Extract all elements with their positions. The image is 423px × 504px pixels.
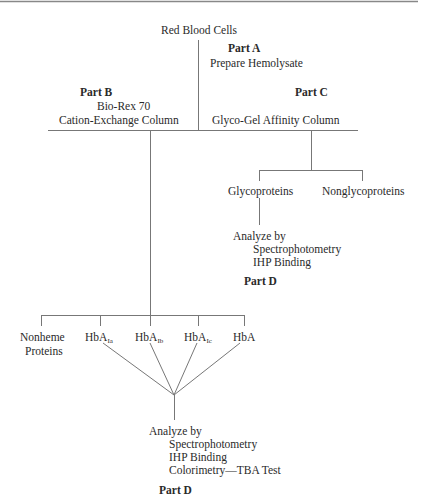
- nonglycoproteins-node: Nonglycoproteins: [322, 184, 404, 198]
- nonheme-node-line1: Nonheme: [20, 330, 65, 344]
- glyco-analyze-title: Analyze by: [233, 229, 286, 243]
- bio-part-d: Part D: [159, 483, 192, 497]
- part-c-label: Part C: [295, 85, 328, 99]
- bio-method-1: Spectrophotometry: [169, 437, 257, 451]
- hba1a-node: HbAIa: [85, 330, 113, 348]
- glycoproteins-node: Glycoproteins: [228, 184, 293, 198]
- nonheme-node-line2: Proteins: [25, 344, 63, 358]
- part-a-label: Part A: [228, 41, 260, 55]
- part-a-text: Prepare Hemolysate: [210, 56, 303, 70]
- part-b-line2: Cation-Exchange Column: [59, 113, 179, 127]
- part-b-line1: Bio-Rex 70: [97, 99, 150, 113]
- part-c-text: Glyco-Gel Affinity Column: [212, 113, 340, 127]
- connector-lines: [0, 0, 423, 504]
- hba-node: HbA: [233, 330, 255, 344]
- part-b-label: Part B: [80, 85, 112, 99]
- hba1c-node: HbAIc: [184, 330, 212, 348]
- glyco-part-d: Part D: [244, 274, 277, 288]
- root-node: Red Blood Cells: [161, 23, 237, 37]
- glyco-method-2: IHP Binding: [253, 255, 311, 269]
- bio-analyze-title: Analyze by: [149, 424, 202, 438]
- glyco-method-1: Spectrophotometry: [253, 242, 341, 256]
- hba1b-node: HbAIb: [135, 330, 163, 348]
- bio-method-3: Colorimetry—TBA Test: [169, 463, 281, 477]
- bio-method-2: IHP Binding: [169, 450, 227, 464]
